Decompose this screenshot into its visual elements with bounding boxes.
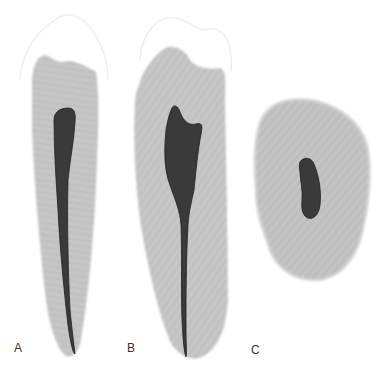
tooth-diagram-figure: [0, 0, 384, 369]
tooth-b: [134, 18, 231, 359]
panel-label-c: C: [251, 343, 260, 357]
panel-label-a: A: [14, 341, 22, 355]
tooth-a: [20, 15, 108, 357]
panel-label-b: B: [127, 341, 135, 355]
tooth-c: [255, 99, 370, 280]
